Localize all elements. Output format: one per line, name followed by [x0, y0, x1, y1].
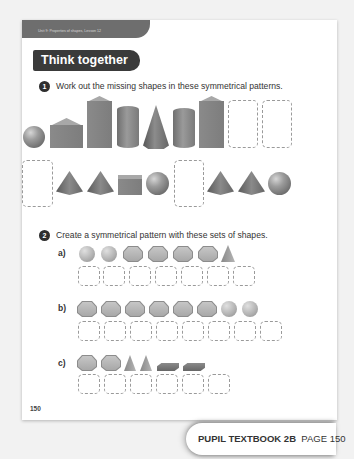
part-c-label: c)	[58, 358, 66, 368]
textbook-page: Unit 9: Properties of shapes, Lesson 12 …	[22, 20, 337, 420]
circle-shape	[221, 301, 237, 317]
cone-shape	[143, 105, 169, 149]
flat-cuboid-shape	[183, 363, 205, 371]
answer-box[interactable]	[130, 321, 152, 341]
cube-shape	[50, 118, 83, 148]
hexagon-shape	[149, 301, 169, 317]
question-1-number: 1	[39, 81, 50, 92]
missing-shape-blank[interactable]	[174, 160, 204, 207]
answer-box[interactable]	[104, 321, 126, 341]
answer-box[interactable]	[260, 321, 282, 341]
answer-box[interactable]	[78, 374, 100, 394]
answer-box[interactable]	[182, 321, 204, 341]
pyramid-shape	[56, 171, 83, 195]
answer-box[interactable]	[233, 266, 255, 286]
answer-box[interactable]	[181, 266, 203, 286]
hexagon-shape	[148, 246, 168, 262]
triangle-shape	[124, 355, 136, 371]
answer-box[interactable]	[155, 266, 177, 286]
pyramid-shape	[87, 171, 114, 195]
part-b-label: b)	[58, 303, 66, 313]
answer-box[interactable]	[208, 374, 230, 394]
hexagon-shape	[198, 246, 218, 262]
tall-cuboid-shape	[87, 96, 112, 148]
hexagon-shape	[173, 246, 193, 262]
hexagon-shape	[101, 301, 121, 317]
footer-tab: PUPIL TEXTBOOK 2B PAGE 150	[186, 423, 336, 455]
cube-shape	[118, 175, 142, 195]
answer-box[interactable]	[234, 321, 256, 341]
question-1-text: Work out the missing shapes in these sym…	[56, 81, 283, 91]
hexagon-shape	[77, 301, 97, 317]
hexagon-shape	[123, 246, 143, 262]
unit-label: Unit 9: Properties of shapes, Lesson 12	[38, 29, 101, 33]
flat-cuboid-shape	[157, 363, 179, 371]
answer-box[interactable]	[103, 266, 125, 286]
section-title: Think together	[33, 50, 140, 71]
pyramid-shape	[238, 171, 265, 195]
footer-page: PAGE 150	[301, 433, 345, 444]
hexagon-shape	[101, 355, 121, 371]
answer-box[interactable]	[182, 374, 204, 394]
answer-box[interactable]	[156, 321, 178, 341]
answer-box[interactable]	[207, 266, 229, 286]
cylinder-shape	[117, 106, 139, 148]
missing-shape-blank[interactable]	[22, 160, 53, 207]
sphere-shape	[268, 172, 291, 195]
missing-shape-blank[interactable]	[262, 100, 292, 148]
circle-shape	[101, 246, 117, 262]
hexagon-shape	[77, 355, 97, 371]
question-2-text: Create a symmetrical pattern with these …	[56, 230, 268, 240]
cylinder-shape	[173, 108, 195, 148]
unit-banner: Unit 9: Properties of shapes, Lesson 12	[22, 20, 150, 38]
tall-cuboid-shape	[199, 96, 224, 148]
sphere-shape	[23, 126, 45, 148]
answer-box[interactable]	[78, 321, 100, 341]
answer-box[interactable]	[208, 321, 230, 341]
answer-box[interactable]	[130, 374, 152, 394]
hexagon-shape	[197, 301, 217, 317]
answer-box[interactable]	[129, 266, 151, 286]
page-number: 150	[30, 405, 41, 412]
hexagon-shape	[125, 301, 145, 317]
answer-box[interactable]	[104, 374, 126, 394]
answer-box[interactable]	[78, 266, 100, 286]
answer-box[interactable]	[156, 374, 178, 394]
hexagon-shape	[173, 301, 193, 317]
pyramid-shape	[207, 171, 234, 195]
part-a-label: a)	[58, 248, 66, 258]
triangle-shape	[221, 245, 235, 262]
circle-shape	[242, 301, 258, 317]
triangle-shape	[140, 355, 152, 371]
footer-book: PUPIL TEXTBOOK 2B	[198, 433, 296, 444]
footer-text: PUPIL TEXTBOOK 2B PAGE 150	[198, 433, 345, 444]
question-2-number: 2	[39, 230, 50, 241]
circle-shape	[79, 246, 95, 262]
missing-shape-blank[interactable]	[228, 100, 258, 148]
sphere-shape	[146, 172, 169, 195]
